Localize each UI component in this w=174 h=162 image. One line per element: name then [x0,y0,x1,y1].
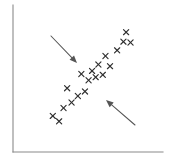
data-point-marker [86,78,91,83]
arrow-shaft [112,105,135,125]
data-point-marker [103,53,108,58]
scatter-plot-figure [0,0,174,162]
data-point-marker [123,30,128,35]
data-point-marker [61,105,66,110]
data-markers-group [50,30,133,124]
data-point-marker [107,64,112,69]
data-point-marker [115,48,120,53]
data-point-marker [121,39,126,44]
data-point-marker [75,93,80,98]
data-point-marker [89,68,94,73]
annotations-group [51,36,135,125]
plot-canvas [0,0,174,162]
axes-group [13,5,163,152]
data-point-marker [82,89,87,94]
data-point-marker [65,86,70,91]
data-point-marker [100,72,105,77]
data-point-marker [69,100,74,105]
spread-arrow-upper-left [51,36,77,63]
data-point-marker [93,75,98,80]
spread-arrow-lower-right [106,100,135,125]
arrow-shaft [51,36,72,58]
data-point-marker [79,71,84,76]
data-point-marker [50,113,55,118]
data-point-marker [128,40,133,45]
data-point-marker [56,119,61,124]
data-point-marker [96,62,101,67]
